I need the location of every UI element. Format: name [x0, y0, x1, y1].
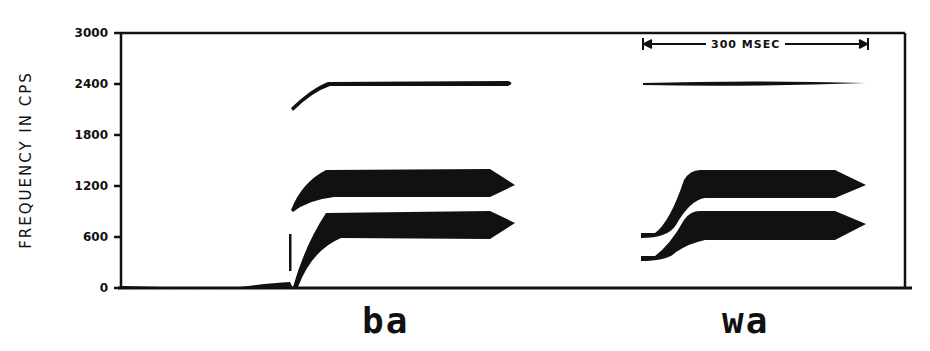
spectrogram-figure [0, 0, 930, 351]
syllable-label-ba: ba [362, 300, 409, 341]
y-tick-1800: 1800 [58, 128, 108, 142]
y-tick-600: 600 [58, 230, 108, 244]
ba-pattern [122, 81, 515, 289]
y-tick-2400: 2400 [58, 77, 108, 91]
axes [114, 33, 912, 289]
syllable-label-wa: wa [722, 300, 769, 341]
duration-label: 300 MSEC [706, 38, 785, 51]
wa-pattern [641, 82, 866, 262]
y-tick-3000: 3000 [58, 26, 108, 40]
y-axis-label: FREQUENCY IN CPS [17, 71, 35, 249]
y-tick-1200: 1200 [58, 179, 108, 193]
y-tick-0: 0 [58, 281, 108, 295]
